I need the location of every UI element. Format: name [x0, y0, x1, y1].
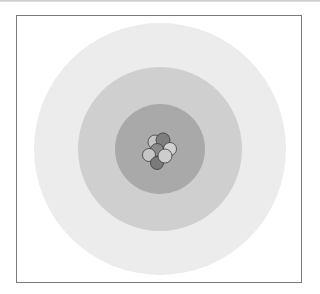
atom-diagram — [0, 0, 320, 294]
proton-particle — [158, 149, 172, 163]
